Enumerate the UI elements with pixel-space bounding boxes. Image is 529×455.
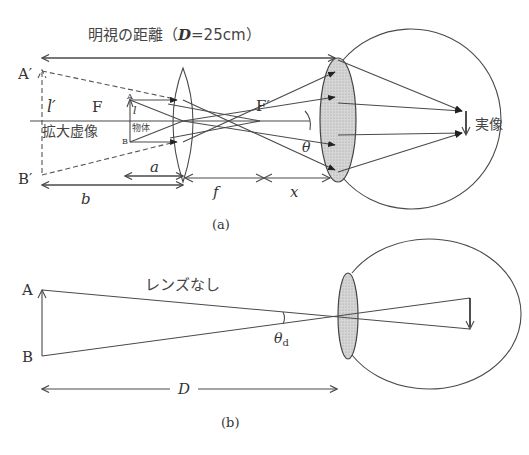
label-F-prime: F′: [256, 97, 270, 115]
eye-ray-1: [338, 60, 462, 111]
label-real-image: 実像: [475, 116, 503, 132]
label-no-lens: レンズなし: [145, 276, 220, 294]
caption-a: (a): [212, 217, 230, 232]
label-object: 物体: [132, 122, 150, 133]
theta-d-arc: [283, 312, 285, 324]
label-B-prime: B′: [18, 170, 33, 188]
label-theta-d: θd: [274, 330, 289, 348]
ray-after-3: [183, 121, 335, 145]
label-B-b: B: [22, 348, 33, 366]
label-object-height: l: [133, 104, 137, 117]
figure-a: 明視の距離（D=25cm）: [17, 26, 503, 232]
label-f: f: [212, 183, 221, 201]
convex-lens: [173, 68, 193, 182]
label-image-height: l′: [47, 97, 56, 116]
caption-b: (b): [221, 415, 239, 430]
label-a: a: [150, 158, 159, 176]
ray-b-top: [42, 290, 470, 329]
label-D: D: [177, 380, 190, 398]
ray-b-bottom: [42, 298, 470, 356]
ray-center-top: [130, 100, 183, 121]
eyeball-b: [352, 239, 521, 389]
label-B: B: [122, 137, 128, 146]
dashed-ray-upper: [42, 71, 175, 99]
label-virtual-image: 拡大虚像: [42, 123, 98, 139]
label-theta: θ: [302, 139, 311, 155]
label-x: x: [290, 183, 299, 201]
label-A: A: [126, 92, 133, 101]
magnifier-diagram: 明視の距離（D=25cm）: [0, 0, 529, 455]
label-b: b: [81, 190, 91, 208]
figure-b: A B レンズなし θd D (b): [21, 239, 521, 430]
label-F: F: [92, 98, 102, 116]
label-A-prime: A′: [17, 65, 33, 83]
eye-ray-3: [338, 133, 462, 135]
eye-ray-2: [338, 103, 462, 111]
distance-label: 明視の距離（D=25cm）: [88, 26, 261, 44]
label-A-b: A: [21, 281, 33, 299]
eye-ray-4: [338, 133, 462, 172]
